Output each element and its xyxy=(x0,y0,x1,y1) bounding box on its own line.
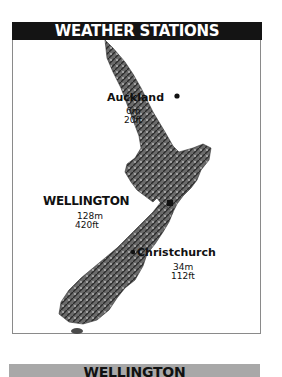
weather-stations-header: WEATHER STATIONS xyxy=(12,22,262,40)
christchurch-elevation-ft: 112ft xyxy=(171,272,195,281)
wellington-marker-icon xyxy=(167,200,173,206)
wellington-elevation-ft: 420ft xyxy=(75,221,99,230)
christchurch-marker-icon xyxy=(131,250,135,254)
map-panel: Auckland 6m 20ft WELLINGTON 128m 420ft C… xyxy=(12,40,261,334)
north-island xyxy=(105,40,211,220)
christchurch-label: Christchurch xyxy=(137,246,216,259)
stewart-island xyxy=(71,328,83,334)
auckland-marker-icon xyxy=(174,93,179,98)
wellington-label: WELLINGTON xyxy=(43,194,129,208)
new-zealand-map xyxy=(13,40,262,334)
station-title-bar: WELLINGTON xyxy=(9,364,260,377)
auckland-label: Auckland xyxy=(107,91,164,104)
auckland-elevation-ft: 20ft xyxy=(124,116,142,125)
